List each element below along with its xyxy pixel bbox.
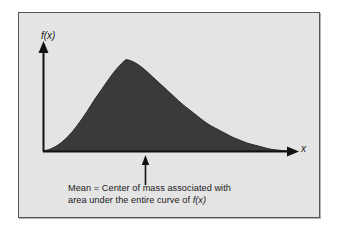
mean-caption: Mean = Center of mass associated with ar… <box>68 183 298 206</box>
y-axis-arrowhead-icon <box>39 41 49 53</box>
y-axis-label: f(x) <box>41 31 55 41</box>
figure-panel: f(x) x Mean = Center of mass associated … <box>18 12 320 218</box>
figure-root: f(x) x Mean = Center of mass associated … <box>0 0 339 235</box>
caption-line-2-prefix: area under the entire curve of <box>68 195 193 205</box>
caption-line-2-math: f(x) <box>193 195 206 205</box>
x-axis-arrowhead-icon <box>287 147 299 157</box>
caption-line-1: Mean = Center of mass associated with <box>68 183 298 195</box>
density-area-shape <box>43 60 287 151</box>
x-axis-label: x <box>301 144 306 154</box>
caption-line-2: area under the entire curve of f(x) <box>68 195 298 207</box>
mean-arrow-head-icon <box>142 155 149 165</box>
